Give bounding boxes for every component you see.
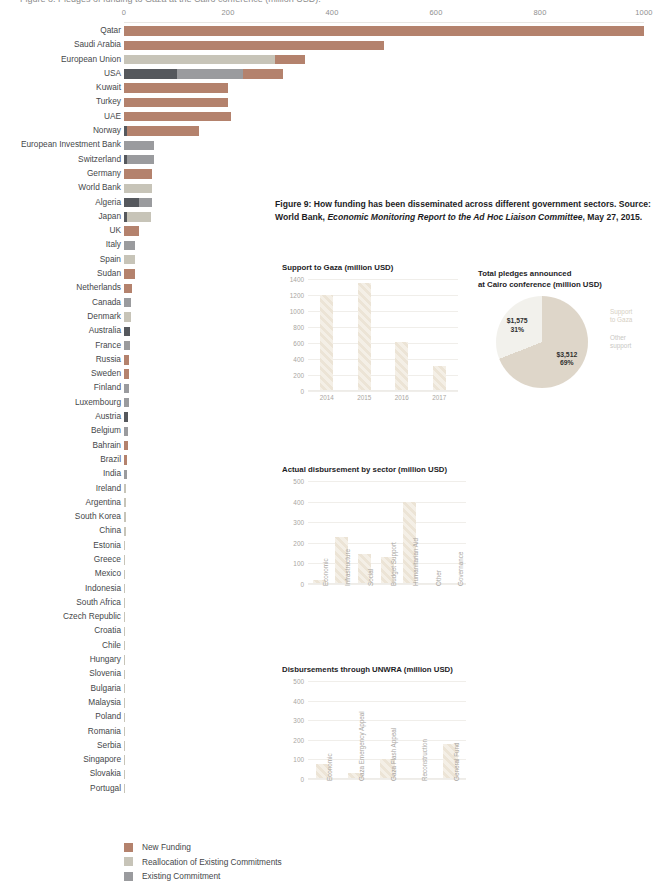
caption-report-title: Economic Monitoring Report to the Ad Hoc… (327, 212, 582, 222)
bar-segment (124, 398, 129, 407)
plot-canvas (308, 481, 466, 584)
bar-segment (124, 455, 127, 464)
pie-slice-label: $1,575 31% (507, 317, 528, 334)
figure-page: Figure 8: Pledges of funding to Gaza at … (0, 0, 668, 890)
pie-graphic[interactable] (496, 296, 588, 388)
bar-row[interactable]: European Investment Bank (0, 138, 668, 152)
bar-segment (177, 69, 243, 78)
bar-track (124, 670, 125, 679)
bar-row[interactable]: Norway (0, 124, 668, 138)
bar-track (124, 269, 135, 278)
bar-segment (139, 198, 152, 207)
bar-track (124, 498, 126, 507)
bar-row[interactable]: Bahrain (0, 439, 668, 453)
caption-line-2-suffix: , (583, 212, 585, 222)
bar-row[interactable]: UAE (0, 110, 668, 124)
bar-segment (124, 484, 126, 493)
bar-label-portugal: Portugal (0, 783, 121, 794)
plot-area: 0100200300400500 (282, 681, 474, 779)
bar-track (124, 713, 125, 722)
x-axis-tick-label: Humanitarian Aid (412, 538, 419, 586)
bar-row[interactable]: World Bank (0, 181, 668, 195)
bar-segment (124, 584, 125, 593)
bar-track (124, 284, 132, 293)
bar-label-austria: Austria (0, 411, 121, 422)
bar-track (124, 584, 125, 593)
bar-label-australia: Australia (0, 325, 121, 336)
bar-label-malaysia: Malaysia (0, 697, 121, 708)
panel-title: Support to Gaza (million USD) (282, 262, 467, 273)
bar-row[interactable]: Italy (0, 238, 668, 252)
bar-row[interactable]: UK (0, 224, 668, 238)
bar-track (124, 770, 125, 779)
legend-item[interactable]: Existing Commitment (124, 869, 524, 884)
bar-track (124, 527, 126, 536)
bar-label-ireland: Ireland (0, 483, 121, 494)
bar-track (124, 470, 127, 479)
bar-label-singapore: Singapore (0, 754, 121, 765)
bar-row[interactable]: Germany (0, 167, 668, 181)
vbar[interactable] (320, 295, 333, 391)
bar-segment (127, 155, 154, 164)
x-axis-tick-label: Gaza Flash Appeal (390, 728, 397, 781)
x-axis-labels: EconomicInfrastructureSocialBudget Suppo… (282, 584, 474, 646)
bar-segment (124, 255, 135, 264)
y-axis-tick-400: 400 (282, 697, 304, 704)
bar-track (124, 83, 228, 92)
panel-unwra-disbursements: Disbursements through UNWRA (million USD… (282, 664, 474, 824)
bar-label-norway: Norway (0, 125, 121, 136)
x-axis-labels: EconomicGaza Emergency AppealGaza Flash … (282, 779, 474, 841)
pie-legend-item[interactable]: Other support (610, 334, 631, 350)
bar-label-switzerland: Switzerland (0, 154, 121, 165)
bar-track (124, 555, 125, 564)
bar-row[interactable]: Kuwait (0, 81, 668, 95)
bar-segment (124, 670, 125, 679)
bar-track (124, 69, 283, 78)
bar-label-algeria: Algeria (0, 197, 121, 208)
bar-segment (124, 269, 135, 278)
x-axis-tick-label: Economic (322, 558, 329, 586)
bar-row[interactable]: Qatar (0, 24, 668, 38)
x-axis-tick-1000: 1000 (635, 8, 653, 17)
bar-track (124, 741, 125, 750)
bar-segment (124, 226, 139, 235)
bar-label-belgium: Belgium (0, 425, 121, 436)
bar-track (124, 512, 126, 521)
legend-item[interactable]: Reallocation of Existing Commitments (124, 855, 524, 870)
bar-segment (124, 112, 231, 121)
bar-row[interactable]: Saudi Arabia (0, 38, 668, 52)
bar-segment (124, 412, 128, 421)
y-axis-tick-400: 400 (282, 498, 304, 505)
bar-row[interactable]: Switzerland (0, 153, 668, 167)
y-axis-tick-300: 300 (282, 717, 304, 724)
bar-label-germany: Germany (0, 168, 121, 179)
x-axis-tick-label: 2014 (320, 394, 334, 401)
legend-label: Reallocation of Existing Commitments (142, 857, 282, 867)
bar-label-czech-republic: Czech Republic (0, 611, 121, 622)
gridline (308, 681, 466, 682)
bar-track (124, 598, 125, 607)
bar-track (124, 341, 130, 350)
legend-item[interactable]: New Funding (124, 840, 524, 855)
bar-label-kuwait: Kuwait (0, 82, 121, 93)
bar-label-european-union: European Union (0, 54, 121, 65)
bar-track (124, 169, 152, 178)
pie-legend-item[interactable]: Support to Gaza (610, 308, 632, 324)
bar-row[interactable]: Turkey (0, 95, 668, 109)
bar-segment (124, 26, 644, 35)
vbar[interactable] (358, 283, 371, 391)
bar-track (124, 412, 128, 421)
bar-segment (124, 498, 126, 507)
bar-segment (124, 512, 126, 521)
bar-track (124, 41, 384, 50)
bar-row[interactable]: European Union (0, 53, 668, 67)
bar-label-hungary: Hungary (0, 654, 121, 665)
y-axis-tick-200: 200 (282, 539, 304, 546)
bar-row[interactable]: USA (0, 67, 668, 81)
vbar[interactable] (433, 366, 446, 391)
vbar[interactable] (395, 342, 408, 391)
bar-label-usa: USA (0, 68, 121, 79)
legend-label: Existing Commitment (142, 871, 220, 881)
bar-segment (124, 198, 139, 207)
panel-title: Disbursements through UNWRA (million USD… (282, 664, 474, 675)
